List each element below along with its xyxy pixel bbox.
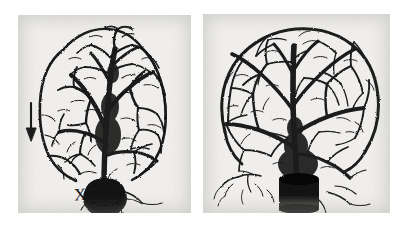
figure-root: X bbox=[0, 0, 402, 228]
panel-right[interactable] bbox=[203, 14, 390, 213]
panel-left[interactable]: X bbox=[18, 15, 191, 213]
left-panel-vasculature bbox=[18, 15, 191, 213]
x-marker: X bbox=[73, 186, 86, 204]
right-panel-vasculature bbox=[203, 14, 390, 213]
